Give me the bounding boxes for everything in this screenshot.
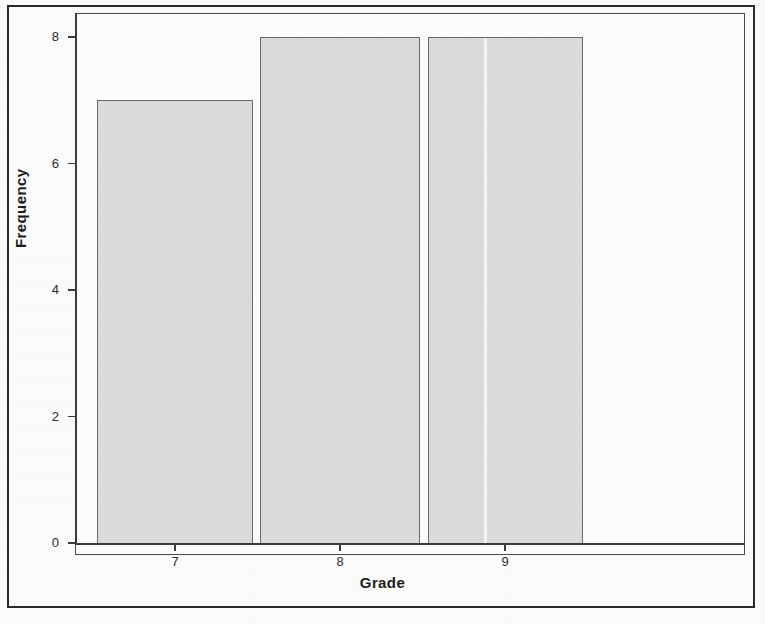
y-tick-0 xyxy=(68,542,76,544)
x-tick-label-7: 7 xyxy=(160,555,190,568)
y-tick-label-0: 0 xyxy=(33,536,59,549)
x-tick-label-9: 9 xyxy=(490,555,520,568)
x-tick-9 xyxy=(504,543,506,551)
bar-8 xyxy=(260,37,420,543)
y-tick-label-2: 2 xyxy=(33,410,59,423)
y-axis-line xyxy=(75,13,77,544)
bar-9 xyxy=(428,37,583,543)
y-tick-label-6: 6 xyxy=(33,157,59,170)
x-tick-8 xyxy=(339,543,341,551)
y-tick-label-4: 4 xyxy=(33,283,59,296)
x-tick-7 xyxy=(174,543,176,551)
y-tick-6 xyxy=(68,163,76,165)
bar-7 xyxy=(97,100,253,543)
y-axis-title: Frequency xyxy=(12,169,29,248)
x-axis-title: Grade xyxy=(0,574,765,591)
y-tick-label-8: 8 xyxy=(33,30,59,43)
y-tick-8 xyxy=(68,36,76,38)
y-tick-2 xyxy=(68,416,76,418)
y-tick-4 xyxy=(68,289,76,291)
x-tick-label-8: 8 xyxy=(325,555,355,568)
